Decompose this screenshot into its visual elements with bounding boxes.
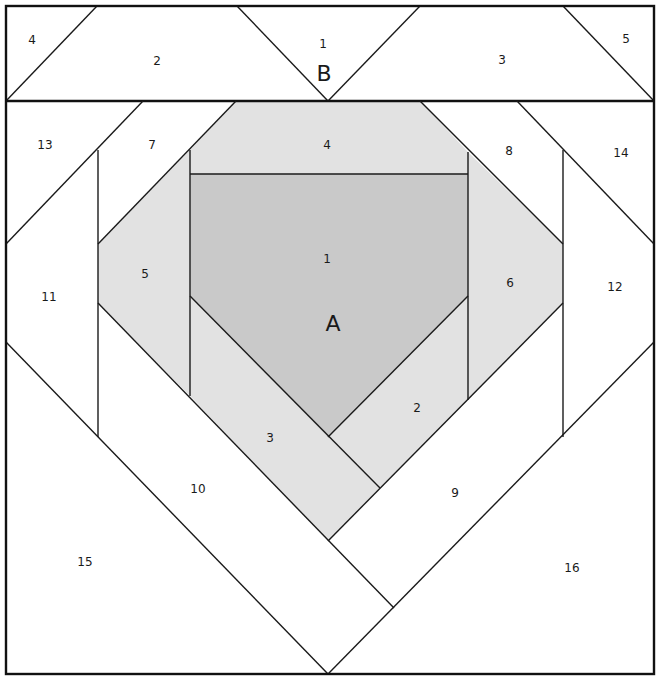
piece-a14-label: 14 xyxy=(613,146,628,160)
seam-b1-b3 xyxy=(328,6,420,101)
piece-b5-label: 5 xyxy=(622,32,630,46)
piece-a13-label: 13 xyxy=(37,138,52,152)
piece-a1-label: 1 xyxy=(323,252,331,266)
section-b-label: B xyxy=(316,61,331,86)
piece-a4-label: 4 xyxy=(323,138,331,152)
piece-b3-label: 3 xyxy=(498,53,506,67)
piece-a12-label: 12 xyxy=(607,280,622,294)
piece-a3-label: 3 xyxy=(266,431,274,445)
piece-a5-label: 5 xyxy=(141,267,149,281)
piece-b1-label: 1 xyxy=(319,37,327,51)
piece-a10-label: 10 xyxy=(190,482,205,496)
piece-b4-label: 4 xyxy=(28,33,36,47)
piece-a9-label: 9 xyxy=(451,486,459,500)
seam-b4-b2 xyxy=(6,6,97,101)
piece-a7-label: 7 xyxy=(148,138,156,152)
quilt-block-diagram: 4 2 1 B 3 5 13 7 4 8 14 1 A 5 6 11 12 2 … xyxy=(0,0,660,680)
piece-a6-fill xyxy=(468,152,563,400)
piece-b2-label: 2 xyxy=(153,54,161,68)
section-a-label: A xyxy=(325,311,340,336)
piece-a8-label: 8 xyxy=(505,144,513,158)
seam-b3-b5 xyxy=(563,6,654,101)
piece-a6-label: 6 xyxy=(506,276,514,290)
piece-a2-label: 2 xyxy=(413,401,421,415)
piece-a11-label: 11 xyxy=(41,290,56,304)
piece-a16-label: 16 xyxy=(564,561,579,575)
piece-a15-label: 15 xyxy=(77,555,92,569)
seam-b2-b1 xyxy=(237,6,328,101)
